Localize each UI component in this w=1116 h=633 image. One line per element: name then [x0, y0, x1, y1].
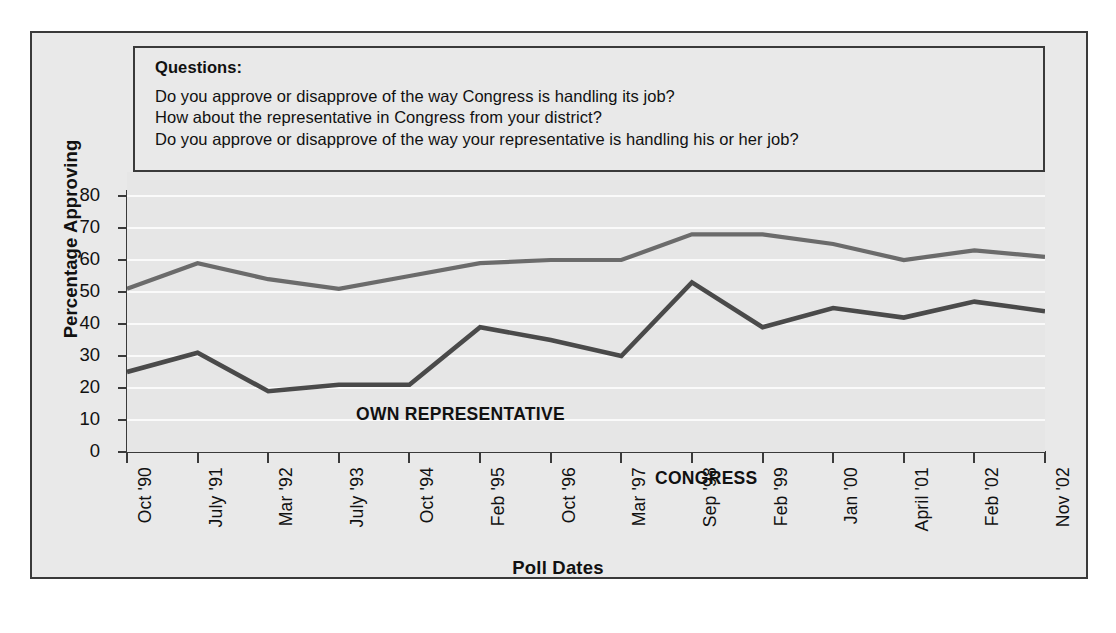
y-tick-label-wrap: 50	[60, 282, 110, 301]
y-tick-label: 40	[60, 314, 100, 333]
y-tick-label-wrap: 80	[60, 186, 110, 205]
x-tick-label: Sep '98	[700, 467, 721, 527]
x-tick-label: July '91	[206, 467, 227, 527]
x-tick-label: April '01	[912, 467, 933, 531]
x-tick	[197, 453, 199, 463]
y-tick	[118, 195, 127, 197]
x-tick	[973, 453, 975, 463]
x-tick-label: Mar '92	[276, 467, 297, 526]
x-tick	[691, 453, 693, 463]
x-tick	[832, 453, 834, 463]
plot-area: OWN REPRESENTATIVE CONGRESS	[127, 172, 1045, 452]
questions-panel: Questions: Do you approve or disapprove …	[133, 46, 1045, 172]
question-line-3: Do you approve or disapprove of the way …	[155, 129, 1043, 151]
y-tick-label: 60	[60, 250, 100, 269]
x-tick-label: Oct '94	[417, 467, 438, 523]
y-tick	[118, 227, 127, 229]
x-tick	[1044, 453, 1046, 463]
y-tick-label: 0	[60, 442, 100, 461]
chart-figure: Questions: Do you approve or disapprove …	[0, 0, 1116, 633]
plot-svg	[127, 172, 1045, 452]
x-tick-label: Feb '02	[982, 467, 1003, 526]
x-tick-label: Jan '00	[841, 467, 862, 524]
series-line-own-representative	[127, 234, 1045, 288]
x-tick	[338, 453, 340, 463]
y-tick-label-wrap: 70	[60, 218, 110, 237]
y-tick-label-wrap: 0	[60, 442, 110, 461]
questions-heading: Questions:	[155, 59, 1043, 76]
y-tick-label: 80	[60, 186, 100, 205]
x-tick-label: Feb '99	[771, 467, 792, 526]
x-tick-label: Mar '97	[629, 467, 650, 526]
series-line-congress	[127, 282, 1045, 391]
x-tick	[408, 453, 410, 463]
x-tick	[762, 453, 764, 463]
y-tick	[118, 259, 127, 261]
y-tick-label: 70	[60, 218, 100, 237]
y-tick-label-wrap: 60	[60, 250, 110, 269]
y-tick	[118, 323, 127, 325]
y-tick-label-wrap: 30	[60, 346, 110, 365]
x-axis-title: Poll Dates	[0, 557, 1116, 579]
x-tick-label: Oct '90	[135, 467, 156, 523]
y-tick	[118, 419, 127, 421]
x-tick-label: Feb '95	[488, 467, 509, 526]
series-label-own-representative: OWN REPRESENTATIVE	[356, 404, 565, 425]
y-tick-label-wrap: 20	[60, 378, 110, 397]
x-tick	[267, 453, 269, 463]
x-tick-label: Nov '02	[1053, 467, 1074, 527]
y-tick-label-wrap: 10	[60, 410, 110, 429]
y-tick-label: 20	[60, 378, 100, 397]
y-tick-label-wrap: 40	[60, 314, 110, 333]
x-tick	[550, 453, 552, 463]
y-tick-label: 10	[60, 410, 100, 429]
x-tick-label: Oct '96	[559, 467, 580, 523]
question-line-1: Do you approve or disapprove of the way …	[155, 86, 1043, 108]
x-tick	[620, 453, 622, 463]
y-tick-label: 50	[60, 282, 100, 301]
y-tick	[118, 291, 127, 293]
x-tick	[903, 453, 905, 463]
y-tick	[118, 387, 127, 389]
x-tick	[479, 453, 481, 463]
y-tick	[118, 355, 127, 357]
y-tick-label: 30	[60, 346, 100, 365]
x-tick-label: July '93	[347, 467, 368, 527]
question-line-2: How about the representative in Congress…	[155, 107, 1043, 129]
x-tick	[126, 453, 128, 463]
